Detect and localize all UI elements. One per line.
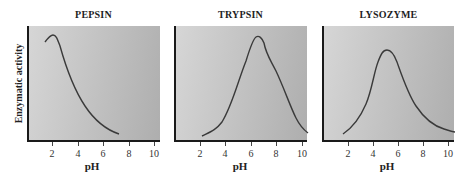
x-tick-label: 10 <box>438 148 458 159</box>
x-tick-label: 4 <box>363 148 383 159</box>
chart-panel-lysozyme: LYSOZYME 2 4 6 8 10 pH <box>0 0 463 182</box>
chart-title-lysozyme: LYSOZYME <box>323 9 454 20</box>
x-axis-label: pH <box>372 160 402 172</box>
lysozyme-curve <box>324 26 456 142</box>
plot-area-lysozyme <box>322 26 454 142</box>
x-tick-label: 8 <box>413 148 433 159</box>
x-tick-label: 2 <box>338 148 358 159</box>
x-tick-label: 6 <box>388 148 408 159</box>
